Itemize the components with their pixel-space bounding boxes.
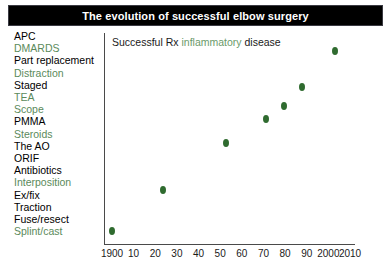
datapoint xyxy=(223,139,229,147)
datapoint xyxy=(281,102,287,110)
x-tick-label: 50 xyxy=(215,248,226,259)
annotation-suffix: disease xyxy=(242,36,281,48)
x-tick-label: 1900 xyxy=(101,248,123,259)
annotation-prefix: Successful Rx xyxy=(112,36,181,48)
y-axis-line xyxy=(104,33,105,245)
x-tick-label: 30 xyxy=(171,248,182,259)
datapoint xyxy=(109,227,115,235)
datapoint xyxy=(332,47,338,55)
slide-canvas: The evolution of successful elbow surger… xyxy=(0,0,391,272)
scatter-plot: Successful Rx inflammatory disease 19001… xyxy=(0,0,391,272)
x-tick-label: 40 xyxy=(193,248,204,259)
x-tick-label: 10 xyxy=(128,248,139,259)
x-tick-label: 60 xyxy=(236,248,247,259)
x-tick-label: 20 xyxy=(150,248,161,259)
annotation-highlight: inflammatory xyxy=(181,36,241,48)
datapoint xyxy=(160,186,166,194)
x-tick-label: 2010 xyxy=(339,248,361,259)
x-tick-label: 90 xyxy=(301,248,312,259)
datapoint xyxy=(299,83,305,91)
plot-annotation: Successful Rx inflammatory disease xyxy=(112,36,281,48)
x-tick-label: 2000 xyxy=(317,248,339,259)
datapoint xyxy=(263,115,269,123)
x-axis-line xyxy=(104,244,355,245)
x-tick-label: 70 xyxy=(258,248,269,259)
x-tick-label: 80 xyxy=(280,248,291,259)
